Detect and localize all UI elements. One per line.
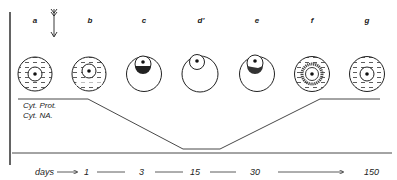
cell-b-icon bbox=[72, 57, 106, 91]
cell-g-icon bbox=[350, 57, 385, 92]
timeline-tick-3: 3 bbox=[139, 167, 144, 177]
timeline-unit-label: days bbox=[35, 167, 54, 177]
cell-e-icon bbox=[240, 55, 275, 92]
cell-a-icon bbox=[18, 57, 52, 91]
stage-label-g: g bbox=[365, 16, 370, 26]
stage-label-c: c bbox=[142, 16, 146, 26]
curve-label-cyt-na: Cyt. NA. bbox=[23, 111, 53, 121]
arrow-indicator-icon bbox=[51, 9, 57, 37]
stage-label-d: d' bbox=[198, 16, 205, 26]
stage-label-a: a bbox=[33, 16, 37, 26]
stage-label-f: f bbox=[311, 16, 314, 26]
stage-label-b: b bbox=[88, 16, 93, 26]
cell-c-icon bbox=[127, 56, 162, 92]
timeline-tick-30: 30 bbox=[250, 167, 260, 177]
curve-label-cyt-prot: Cyt. Prot. bbox=[23, 101, 56, 111]
timeline-tick-150: 150 bbox=[364, 167, 379, 177]
cell-change-diagram bbox=[0, 0, 397, 180]
stage-label-e: e bbox=[255, 16, 259, 26]
cell-f-icon bbox=[295, 57, 330, 92]
cell-d-icon bbox=[182, 55, 218, 93]
timeline-tick-1: 1 bbox=[84, 167, 89, 177]
cyt-prot-na-curve bbox=[18, 99, 380, 149]
timeline-tick-15: 15 bbox=[190, 167, 200, 177]
